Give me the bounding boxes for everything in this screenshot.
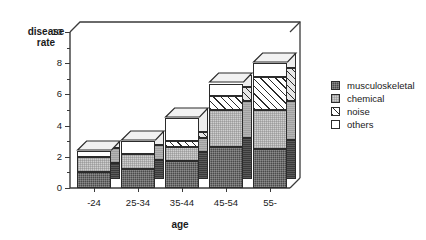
legend-swatch-others	[331, 120, 340, 129]
bar-segment-others	[253, 63, 287, 77]
bar-segment-side-musculoskeletal	[199, 152, 208, 179]
x-tick	[182, 188, 183, 192]
legend-item-noise: noise	[331, 106, 423, 118]
bar-top-cap	[209, 72, 255, 84]
bar-segment-side-chemical	[287, 101, 296, 140]
x-tick	[270, 188, 271, 192]
bar-segment-others	[121, 141, 155, 153]
x-tick-label-45-54: 45-54	[203, 198, 249, 208]
x-tick	[226, 188, 227, 192]
bar-35-44	[165, 32, 199, 188]
bar-segment-others	[165, 118, 199, 141]
y-tick-label: 2	[42, 152, 62, 161]
bar-top-cap	[121, 130, 167, 142]
y-axis: 0246810	[48, 22, 70, 188]
bar-segment-musculoskeletal	[209, 147, 243, 188]
bar-top-cap	[165, 107, 211, 119]
legend-label: noise	[347, 106, 370, 118]
bar-segment-chemical	[165, 147, 199, 161]
legend-swatch-musculoskeletal	[331, 81, 340, 90]
bar-segment-side-noise	[199, 132, 208, 138]
chart-figure: disease rate age 0246810 -2425-3435-4445…	[0, 0, 426, 240]
bar-segment-side-musculoskeletal	[111, 163, 120, 179]
x-axis-title: age	[150, 219, 210, 230]
bar-segment-side-musculoskeletal	[155, 160, 164, 179]
x-tick-label-35-44: 35-44	[159, 198, 205, 208]
legend-swatch-noise	[331, 107, 340, 116]
bar-45-54	[209, 32, 243, 188]
bar--24	[77, 32, 111, 188]
bar-segment-side-noise	[287, 68, 296, 101]
y-tick-label: 4	[42, 121, 62, 130]
x-tick	[138, 188, 139, 192]
bar-segment-musculoskeletal	[165, 161, 199, 188]
y-tick-label: 6	[42, 89, 62, 98]
y-tick-label: 8	[42, 58, 62, 67]
legend-item-musculoskeletal: musculoskeletal	[331, 80, 423, 92]
bar-segment-side-chemical	[155, 145, 164, 161]
x-axis: -2425-3435-4445-5455-	[70, 188, 300, 190]
bar-segment-others	[209, 84, 243, 96]
bar-segment-side-musculoskeletal	[243, 138, 252, 179]
bar-segment-noise	[209, 96, 243, 110]
bar-55-	[253, 32, 287, 188]
y-tick-label: 10	[42, 27, 62, 36]
legend-label: chemical	[347, 93, 385, 105]
y-tick-label: 0	[42, 183, 62, 192]
plot-area	[70, 22, 300, 188]
x-tick-label-55-: 55-	[247, 198, 293, 208]
bar-segment-musculoskeletal	[121, 169, 155, 188]
legend-label: musculoskeletal	[347, 80, 415, 92]
bar-segment-side-noise	[243, 87, 252, 101]
legend-label: others	[347, 119, 373, 131]
x-tick-label-25-34: 25-34	[115, 198, 161, 208]
legend-swatch-chemical	[331, 94, 340, 103]
bar-segment-chemical	[77, 157, 111, 173]
x-tick	[94, 188, 95, 192]
bar-segment-chemical	[209, 110, 243, 147]
chart-legend: musculoskeletalchemicalnoiseothers	[331, 80, 423, 132]
legend-item-chemical: chemical	[331, 93, 423, 105]
bar-segment-musculoskeletal	[253, 149, 287, 188]
bar-25-34	[121, 32, 155, 188]
bar-top-cap	[77, 140, 123, 152]
bar-segment-chemical	[121, 154, 155, 170]
legend-item-others: others	[331, 119, 423, 131]
bar-segment-chemical	[253, 110, 287, 149]
x-tick-label--24: -24	[71, 198, 117, 208]
bar-segment-side-chemical	[199, 138, 208, 152]
bar-segment-noise	[253, 77, 287, 110]
bar-segment-musculoskeletal	[77, 172, 111, 188]
bar-segment-side-chemical	[243, 101, 252, 138]
bar-segment-side-musculoskeletal	[287, 140, 296, 179]
bar-segment-noise	[165, 141, 199, 147]
bar-top-cap	[253, 52, 299, 64]
